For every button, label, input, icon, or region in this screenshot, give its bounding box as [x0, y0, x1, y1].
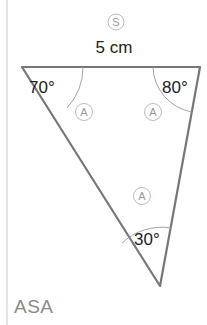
side-marker-label: S	[112, 16, 119, 28]
triangle	[22, 67, 200, 286]
side-marker: S	[108, 14, 124, 30]
angle-marker-top-left: A	[76, 104, 93, 121]
svg-text:A: A	[80, 106, 88, 118]
angle-marker-bottom: A	[134, 188, 151, 205]
triangle-diagram: S 5 cm 70° 80° 30° A A A	[0, 0, 207, 325]
angle-top-right: 80°	[162, 78, 188, 97]
side-length-label: 5 cm	[96, 38, 133, 57]
angle-top-left: 70°	[29, 78, 55, 97]
angle-bottom: 30°	[134, 230, 160, 249]
svg-text:A: A	[138, 190, 146, 202]
angle-arc-top-left	[67, 67, 83, 108]
angle-marker-top-right: A	[145, 104, 162, 121]
svg-text:A: A	[149, 106, 157, 118]
rule-label: ASA	[14, 296, 54, 318]
